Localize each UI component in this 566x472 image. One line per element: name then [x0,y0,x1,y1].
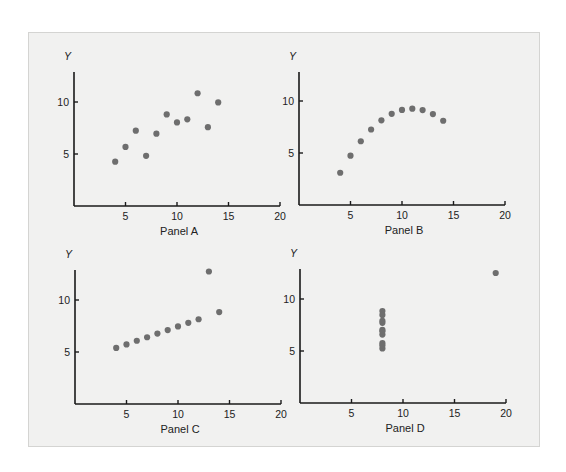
data-point [134,338,140,344]
data-point [409,106,415,112]
data-point [195,90,201,96]
x-tick-label: 20 [500,407,512,419]
data-point [164,111,170,117]
data-point [430,111,436,117]
data-point [368,126,374,132]
x-tick-label: 10 [397,407,409,419]
data-point [420,107,426,113]
panel-title: Panel B [385,224,424,236]
x-tick-label: 15 [449,407,461,419]
data-point [123,341,129,347]
y-tick-label: 5 [64,346,70,358]
data-point [399,107,405,113]
data-point [206,268,212,274]
x-tick-label: 20 [499,209,511,221]
x-tick-label: 10 [172,408,184,420]
x-tick-label: 20 [275,408,287,420]
data-point [144,334,150,340]
y-tick-label: 10 [58,294,70,306]
data-point [358,138,364,144]
data-point [337,170,343,176]
data-point [205,124,211,130]
panel-a: 5101520510YPanel A [57,50,286,237]
data-point [215,99,221,105]
panel-c: 5101520510YPanel C [58,248,287,435]
data-point [122,144,128,150]
data-point [440,118,446,124]
data-point [165,327,171,333]
y-tick-label: 5 [288,147,294,159]
data-point [154,330,160,336]
data-point [379,342,385,348]
x-tick-label: 5 [349,407,355,419]
x-tick-label: 15 [448,209,460,221]
data-point [493,270,499,276]
data-point [379,318,385,324]
y-axis-label: Y [64,50,72,62]
y-axis-label: Y [290,247,298,259]
data-point [112,159,118,165]
x-tick-label: 20 [274,210,286,222]
anscombe-figure: 5101520510YPanel A5101520510YPanel B5101… [0,0,566,472]
panel-title: Panel D [385,422,424,434]
data-point [389,111,395,117]
panel-title: Panel A [160,225,199,237]
y-tick-label: 10 [282,95,294,107]
panel-title: Panel C [160,423,199,435]
data-point [185,320,191,326]
data-point [113,345,119,351]
y-tick-label: 10 [57,96,69,108]
x-tick-label: 10 [396,209,408,221]
data-point [379,328,385,334]
x-tick-label: 10 [171,210,183,222]
x-tick-label: 5 [348,209,354,221]
y-axis-label: Y [289,50,297,62]
data-point [347,153,353,159]
data-point [174,119,180,125]
data-point [133,128,139,134]
y-tick-label: 5 [289,345,295,357]
data-point [143,153,149,159]
y-axis-label: Y [65,248,73,260]
data-point [184,116,190,122]
panel-b: 5101520510YPanel B [282,50,511,236]
x-tick-label: 15 [224,408,236,420]
y-tick-label: 5 [63,148,69,160]
data-point [216,309,222,315]
data-point [379,312,385,318]
data-point [153,131,159,137]
x-tick-label: 15 [223,210,235,222]
data-point [175,323,181,329]
data-point [378,117,384,123]
y-tick-label: 10 [283,293,295,305]
x-tick-label: 5 [124,408,130,420]
x-tick-label: 5 [123,210,129,222]
panel-d: 5101520510YPanel D [283,247,512,434]
data-point [196,316,202,322]
